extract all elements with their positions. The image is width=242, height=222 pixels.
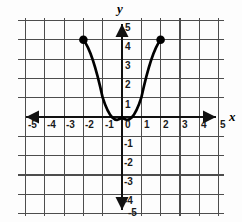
x-tick-label-4: 4 <box>201 120 207 130</box>
x-tick-label--3: -3 <box>66 120 75 130</box>
x-tick-label--2: -2 <box>85 120 94 130</box>
x-tick-label-0: 0 <box>125 120 131 130</box>
x-tick-label-2: 2 <box>163 120 169 130</box>
y-tick-label--3: -3 <box>124 177 133 187</box>
endpoint-right-dot <box>156 36 165 45</box>
y-tick-label--1: -1 <box>124 139 133 149</box>
y-tick-label-5: 5 <box>125 23 131 33</box>
endpoint-left-dot <box>79 36 88 45</box>
y-tick-label-3: 3 <box>125 61 131 71</box>
y-axis-label: y <box>117 2 123 15</box>
x-tick-label-1: 1 <box>144 120 150 130</box>
y-tick-label-1: 1 <box>125 100 131 110</box>
graph-figure: y x -5 -4 -3 -2 -1 0 1 2 3 4 5 5 4 3 2 1… <box>0 0 242 222</box>
coordinate-plane <box>0 0 242 222</box>
y-tick-label--5: -5 <box>128 208 137 218</box>
x-tick-label-3: 3 <box>182 120 188 130</box>
y-tick-label--4: -4 <box>124 196 133 206</box>
y-tick-label-4: 4 <box>125 42 131 52</box>
x-tick-label-5: 5 <box>220 120 226 130</box>
y-tick-label-2: 2 <box>125 80 131 90</box>
x-axis-label: x <box>229 110 236 123</box>
x-tick-label--4: -4 <box>47 120 56 130</box>
x-tick-label--1: -1 <box>105 120 114 130</box>
y-tick-label--2: -2 <box>124 158 133 168</box>
x-tick-label--5: -5 <box>28 120 37 130</box>
